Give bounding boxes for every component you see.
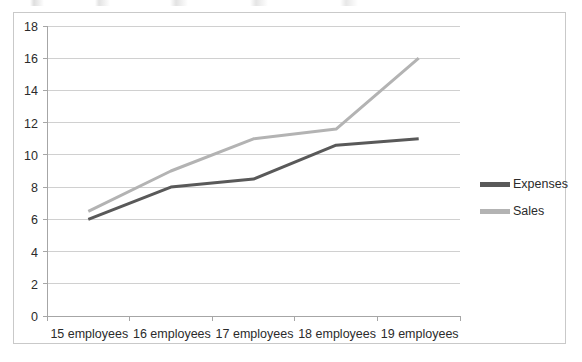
legend-swatch-icon xyxy=(480,182,510,187)
y-axis-tick-label: 0 xyxy=(12,311,38,324)
y-axis-tick-label: 4 xyxy=(12,247,38,260)
scan-artifact xyxy=(0,0,582,6)
legend-item-sales[interactable]: Sales xyxy=(480,198,576,225)
chart-legend: ExpensesSales xyxy=(480,171,576,225)
x-axis-tick-label: 18 employees xyxy=(296,328,379,341)
legend-label: Expenses xyxy=(513,178,568,191)
chart-frame: 024681012141618 15 employees16 employees… xyxy=(13,12,566,344)
x-axis-tick-label: 15 employees xyxy=(48,328,131,341)
x-axis-tick-label: 17 employees xyxy=(213,328,296,341)
y-axis-tick-label: 18 xyxy=(12,21,38,34)
y-axis-tick-label: 12 xyxy=(12,118,38,131)
y-axis-tick-label: 10 xyxy=(12,150,38,163)
x-axis-tick-label: 16 employees xyxy=(131,328,214,341)
x-axis-tick-label: 19 employees xyxy=(378,328,461,341)
y-axis-tick-label: 16 xyxy=(12,53,38,66)
y-axis-tick-label: 6 xyxy=(12,214,38,227)
y-axis-tick-label: 8 xyxy=(12,182,38,195)
legend-label: Sales xyxy=(513,205,544,218)
legend-item-expenses[interactable]: Expenses xyxy=(480,171,576,198)
legend-swatch-icon xyxy=(480,209,510,214)
y-axis-tick-label: 2 xyxy=(12,279,38,292)
y-axis-tick-label: 14 xyxy=(12,85,38,98)
